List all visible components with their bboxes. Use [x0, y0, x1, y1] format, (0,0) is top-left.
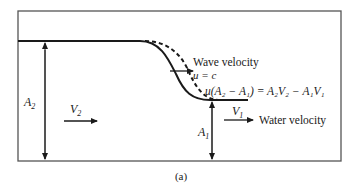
water-velocity-label: Water velocity [259, 114, 326, 127]
v2-label: V2 [70, 102, 81, 118]
v1-label: V1 [232, 104, 243, 120]
u-equals-c-label: u = c [193, 69, 216, 81]
continuity-equation-label: u(A₂ − A₁) = A₂V₂ − A₁V₁ [205, 85, 324, 98]
wave-diagram: Wave velocity u = c u(A₂ − A₁) = A₂V₂ − … [0, 0, 362, 190]
a2-label: A2 [23, 95, 35, 111]
wave-velocity-label: Wave velocity [193, 56, 259, 69]
a1-label: A1 [197, 125, 209, 141]
figure-caption: (a) [175, 170, 188, 183]
